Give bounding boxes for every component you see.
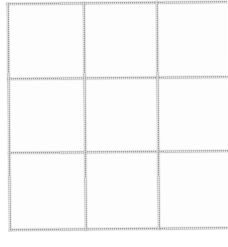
grid-cell-r1c1[interactable] xyxy=(9,4,84,78)
grid-cell-r3c1[interactable] xyxy=(10,153,85,229)
scanned-grid-page xyxy=(0,0,228,247)
grid-cell-r3c2[interactable] xyxy=(86,153,158,229)
grid-cell-r2c2[interactable] xyxy=(86,79,158,152)
grid-cell-r2c1[interactable] xyxy=(10,79,85,152)
grid-assembly xyxy=(0,0,228,247)
grid-cell-r1c3[interactable] xyxy=(158,3,228,77)
grid-cell-r1c2[interactable] xyxy=(85,4,157,78)
grid-cell-r3c3[interactable] xyxy=(159,152,228,228)
grid-cell-r2c3[interactable] xyxy=(159,78,228,151)
